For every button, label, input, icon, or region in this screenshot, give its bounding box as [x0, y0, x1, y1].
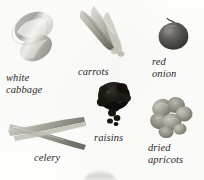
- red-onion-photo: [152, 18, 196, 54]
- white-cabbage-photo: [6, 6, 68, 70]
- dried-apricots-photo: [146, 94, 198, 140]
- celery-photo: [4, 114, 90, 154]
- ingredient-plate-page: white cabbage: [0, 0, 204, 180]
- caption-raisins: raisins: [94, 132, 123, 144]
- caption-carrots: carrots: [78, 66, 109, 78]
- cropped-object-photo: [78, 170, 122, 180]
- caption-red-onion: red onion: [152, 56, 176, 79]
- caption-white-cabbage: white cabbage: [6, 72, 42, 95]
- caption-celery: celery: [34, 152, 60, 164]
- carrots-photo: [74, 4, 136, 64]
- caption-dried-apricots: dried apricots: [148, 142, 183, 165]
- raisins-photo: [92, 78, 140, 132]
